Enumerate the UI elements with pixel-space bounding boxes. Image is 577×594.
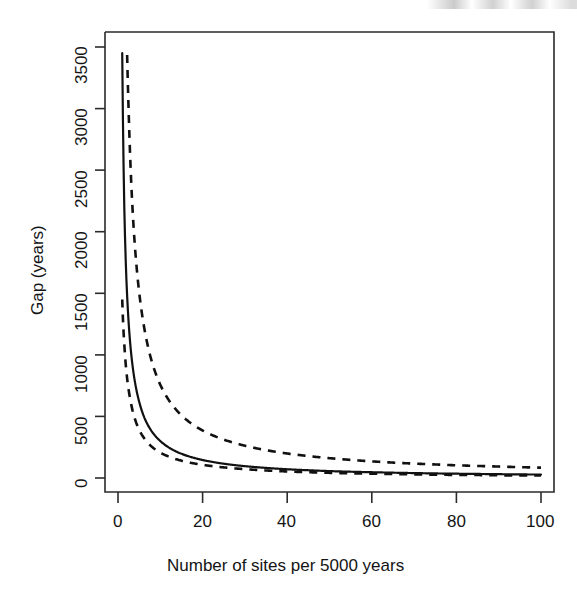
x-axis-ticks — [118, 492, 541, 503]
y-tick-label-500: 500 — [72, 417, 92, 445]
x-tick-label-40: 40 — [277, 512, 296, 532]
y-axis-ticks — [95, 47, 105, 478]
plot-box-border — [105, 32, 554, 492]
curve-expected-gap — [122, 53, 541, 474]
y-tick-label-1000: 1000 — [72, 355, 92, 393]
figure-canvas: 0 500 1000 1500 2000 2500 3000 3500 0 20… — [0, 0, 577, 594]
x-tick-label-80: 80 — [447, 512, 466, 532]
y-tick-label-2000: 2000 — [72, 231, 92, 269]
x-tick-label-60: 60 — [362, 512, 381, 532]
y-tick-label-3500: 3500 — [72, 46, 92, 84]
y-tick-label-1500: 1500 — [72, 293, 92, 331]
y-tick-label-2500: 2500 — [72, 170, 92, 208]
x-tick-label-20: 20 — [193, 512, 212, 532]
curve-lower-bound — [122, 299, 541, 475]
x-axis-title: Number of sites per 5000 years — [167, 556, 404, 576]
x-tick-label-0: 0 — [113, 512, 122, 532]
y-tick-label-0: 0 — [72, 479, 92, 488]
y-tick-label-3000: 3000 — [72, 108, 92, 146]
y-axis-title: Gap (years) — [28, 225, 48, 315]
curve-upper-bound — [127, 55, 541, 468]
x-tick-label-100: 100 — [526, 512, 554, 532]
